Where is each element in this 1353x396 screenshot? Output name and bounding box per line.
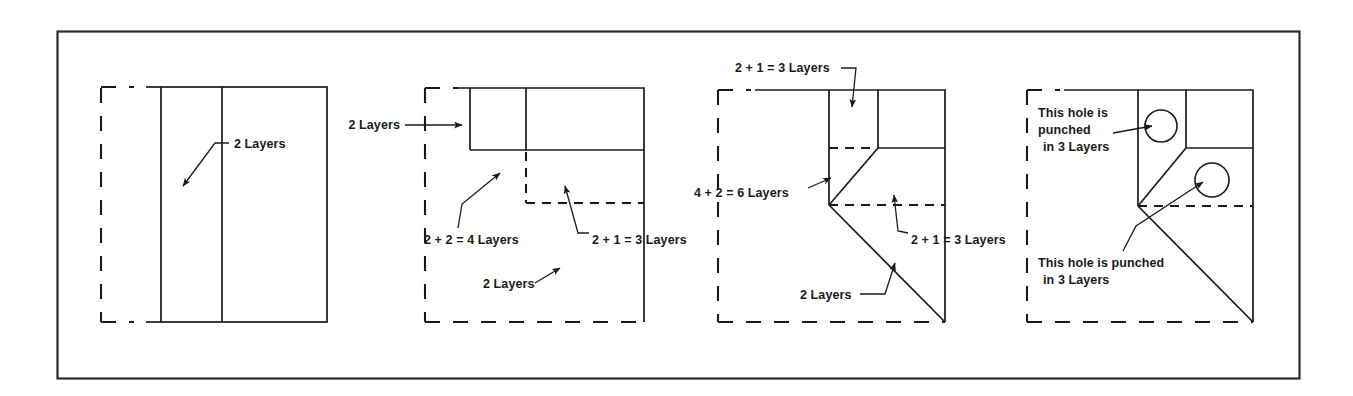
- panel-3-label-1: 2 + 1 = 3 Layers: [735, 61, 830, 75]
- panel-2-label-1: 2 Layers: [348, 118, 400, 132]
- panel-2-label-3: 2 + 1 = 3 Layers: [592, 233, 687, 247]
- panel-4-label-2-line-1: This hole is punched: [1038, 256, 1164, 270]
- outer-border: [58, 32, 1300, 379]
- figure-canvas: 2 Layers 2 Layers 2 + 2 = 4 Layers 2 + 1…: [0, 0, 1353, 396]
- panel-4-label-1-line-1: This hole is: [1038, 106, 1108, 120]
- panel-2-label-2: 2 + 2 = 4 Layers: [424, 233, 519, 247]
- panel-3-label-2: 4 + 2 = 6 Layers: [694, 186, 789, 200]
- panel-2-label-4: 2 Layers: [483, 277, 535, 291]
- panel-3-label-4: 2 Layers: [800, 288, 852, 302]
- panel-4-label-2-line-2: in 3 Layers: [1043, 273, 1109, 287]
- panel-4-label-1-line-2: punched: [1038, 123, 1091, 137]
- figure-root: 2 Layers 2 Layers 2 + 2 = 4 Layers 2 + 1…: [0, 0, 1353, 396]
- panel-1-label-1: 2 Layers: [234, 137, 286, 151]
- panel-4-label-1-line-3: in 3 Layers: [1043, 140, 1109, 154]
- panel-3-label-3: 2 + 1 = 3 Layers: [911, 233, 1006, 247]
